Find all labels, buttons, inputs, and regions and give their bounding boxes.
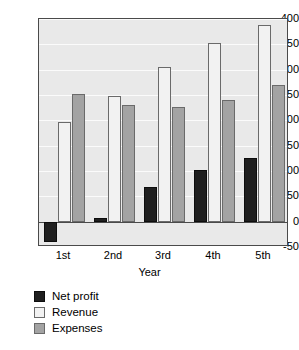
bar-expenses-3rd (172, 107, 185, 222)
bar-net-profit-4th (194, 170, 207, 222)
bar-net-profit-3rd (144, 187, 157, 221)
bar-expenses-5th (272, 85, 285, 221)
bar-revenue-1st (58, 122, 71, 221)
x-axis-title: Year (0, 267, 299, 278)
legend-label: Expenses (52, 323, 103, 335)
bar-expenses-2nd (122, 105, 135, 222)
x-tick-label-3rd: 3rd (155, 250, 171, 261)
bar-revenue-2nd (108, 96, 121, 222)
bar-expenses-4th (222, 100, 235, 222)
gridline (39, 44, 287, 45)
legend-label: Revenue (52, 307, 98, 319)
x-tick-label-4th: 4th (205, 250, 220, 261)
bar-net-profit-2nd (94, 218, 107, 222)
legend-label: Net profit (52, 291, 99, 303)
x-tick-label-5th: 5th (255, 250, 270, 261)
legend-swatch-revenue (34, 307, 45, 318)
plot-area (38, 18, 288, 246)
legend-item: Revenue (34, 305, 103, 320)
bar-revenue-4th (208, 43, 221, 221)
bar-expenses-1st (72, 94, 85, 221)
bar-net-profit-1st (44, 222, 57, 242)
legend-item: Net profit (34, 289, 103, 304)
x-tick-label-1st: 1st (56, 250, 71, 261)
zero-axis-line (39, 222, 287, 223)
bar-chart: -50050100150200250300350400 1st2nd3rd4th… (0, 0, 299, 350)
legend-swatch-expenses (34, 323, 45, 334)
bar-revenue-3rd (158, 67, 171, 222)
gridline (39, 19, 287, 20)
bar-revenue-5th (258, 25, 271, 222)
bar-net-profit-5th (244, 158, 257, 221)
legend: Net profitRevenueExpenses (34, 289, 103, 337)
legend-swatch-net-profit (34, 291, 45, 302)
legend-item: Expenses (34, 321, 103, 336)
x-tick-label-2nd: 2nd (104, 250, 122, 261)
